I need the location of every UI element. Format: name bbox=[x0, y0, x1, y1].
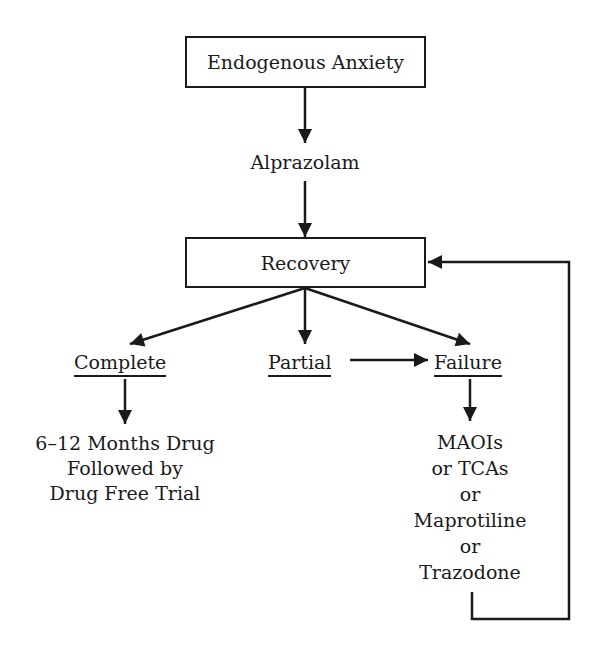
failure-outcome-line: or bbox=[400, 481, 540, 507]
flowchart-canvas: Endogenous Anxiety Alprazolam Recovery C… bbox=[0, 0, 600, 649]
node-endogenous-anxiety: Endogenous Anxiety bbox=[185, 36, 426, 88]
node-failure-label: Failure bbox=[434, 351, 502, 377]
failure-outcome-line: or TCAs bbox=[400, 455, 540, 481]
node-endogenous-anxiety-label: Endogenous Anxiety bbox=[207, 51, 404, 73]
node-failure-outcome: MAOIs or TCAs or Maprotiline or Trazodon… bbox=[400, 429, 540, 585]
complete-outcome-line: 6–12 Months Drug bbox=[15, 431, 235, 456]
node-complete-label: Complete bbox=[74, 351, 166, 377]
node-complete-outcome: 6–12 Months Drug Followed by Drug Free T… bbox=[15, 431, 235, 506]
failure-outcome-line: or bbox=[400, 533, 540, 559]
node-partial: Partial bbox=[268, 350, 331, 374]
complete-outcome-line: Drug Free Trial bbox=[15, 481, 235, 506]
node-complete: Complete bbox=[74, 350, 166, 374]
node-failure: Failure bbox=[434, 350, 502, 374]
node-partial-label: Partial bbox=[268, 351, 331, 377]
complete-outcome-line: Followed by bbox=[15, 456, 235, 481]
failure-outcome-line: Trazodone bbox=[400, 559, 540, 585]
failure-outcome-line: MAOIs bbox=[400, 429, 540, 455]
node-alprazolam: Alprazolam bbox=[205, 150, 405, 174]
node-recovery: Recovery bbox=[185, 237, 426, 288]
failure-outcome-line: Maprotiline bbox=[400, 507, 540, 533]
arrow-recovery-to-complete bbox=[130, 288, 305, 344]
node-recovery-label: Recovery bbox=[261, 252, 350, 274]
arrow-recovery-to-failure bbox=[305, 288, 470, 344]
